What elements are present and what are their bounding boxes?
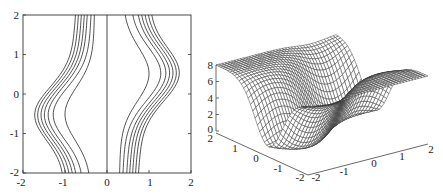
z-tick-label: 6 (208, 75, 214, 87)
right-axis-tick-label: 1 (399, 150, 405, 162)
contour-line (139, 15, 180, 173)
right-axis-tick-label: 0 (371, 157, 377, 169)
left-axis-tick-label: -1 (273, 162, 282, 174)
right-axis-tick-label: -1 (339, 165, 348, 177)
right-axis-tick-label: -2 (311, 171, 320, 183)
z-tick-label: 4 (208, 92, 214, 104)
x-tick-label: 1 (147, 176, 153, 188)
left-axis-tick-label: 0 (253, 152, 259, 164)
left-axis-tick-label: 2 (208, 132, 214, 144)
left-axis-tick-label: 1 (232, 142, 238, 154)
y-tick-label: 1 (14, 48, 20, 60)
figure: -2 -1 0 1 2 2 1 0 -1 -2 8 6 4 2 0 2 (0, 0, 443, 196)
left-axis-tick-label: -2 (295, 171, 304, 183)
base-axis-right (308, 144, 428, 175)
x-tick-label: 0 (104, 176, 110, 188)
surface-plot: 8 6 4 2 0 2 1 0 -1 -2 -2 -1 0 1 2 (208, 35, 434, 183)
y-tick-label: 0 (14, 88, 20, 100)
x-tick-label: 2 (188, 176, 194, 188)
z-tick-label: 8 (208, 59, 214, 71)
surface-mesh (216, 35, 428, 150)
y-tick-label: 2 (14, 9, 20, 21)
y-tick-label: -2 (10, 166, 19, 178)
x-tick-label: -1 (58, 176, 67, 188)
z-tick-label: 2 (208, 108, 214, 120)
contour-lines-left (35, 15, 95, 173)
right-axis-tick-label: 2 (428, 143, 434, 155)
contour-line (35, 15, 76, 173)
contour-plot: -2 -1 0 1 2 2 1 0 -1 -2 (10, 9, 194, 188)
contour-lines-right (120, 15, 180, 173)
y-tick-label: -1 (10, 127, 19, 139)
